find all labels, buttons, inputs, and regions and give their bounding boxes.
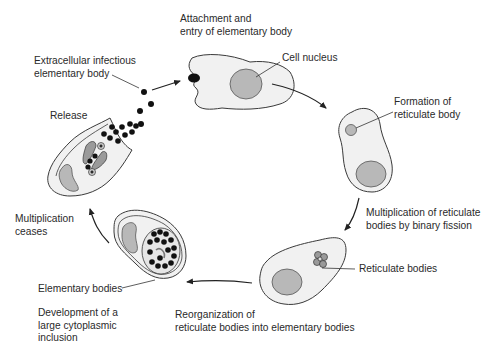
formation-cell [339, 108, 393, 192]
arrow-to-multiplication [345, 198, 359, 230]
label-multiplication: Multiplication of reticulate bodies by b… [366, 207, 480, 232]
arrow-to-reorganization [187, 281, 252, 283]
cell-nucleus-1 [230, 69, 262, 99]
label-reorganization: Reorganization of reticulate bodies into… [175, 309, 355, 334]
life-cycle-artwork [0, 0, 493, 354]
inclusion-cell [114, 210, 186, 278]
leader-elementary-bodies [122, 280, 155, 288]
label-development: Development of a large cytoplasmic inclu… [38, 307, 118, 345]
cell-nucleus-3 [272, 269, 302, 295]
label-cell-nucleus: Cell nucleus [282, 52, 338, 65]
reticulate-body [346, 125, 357, 136]
arrow-to-attachment [152, 81, 180, 90]
cell-nucleus-2 [356, 161, 386, 187]
entering-elementary-body [188, 74, 200, 83]
label-attachment: Attachment and entry of elementary body [180, 13, 292, 38]
arrow-to-ceases [90, 209, 109, 243]
reticulate-cell [260, 238, 346, 305]
label-formation: Formation of reticulate body [394, 96, 460, 121]
label-reticulate-bodies: Reticulate bodies [359, 263, 437, 276]
label-extracellular: Extracellular infectious elementary body [34, 55, 136, 80]
label-elementary-bodies: Elementary bodies [38, 283, 122, 296]
label-ceases: Multiplication ceases [15, 213, 74, 238]
label-release: Release [50, 110, 87, 123]
dividing-reticulate-bodies [314, 252, 328, 268]
release-cell [48, 89, 154, 196]
